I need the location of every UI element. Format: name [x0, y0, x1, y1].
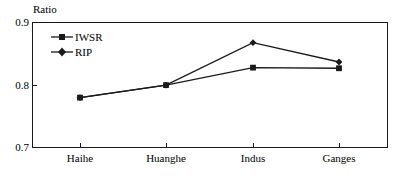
y-tick-mark-0.7 — [32, 147, 37, 148]
legend-label-rip: RIP — [75, 46, 92, 58]
x-tick-label-ganges: Ganges — [323, 152, 356, 165]
chart-screenshot: Ratio 0.9 0.8 0.7 Haihe Huanghe Indus Ga… — [0, 0, 399, 179]
y-tick-mark-0.9 — [32, 22, 37, 23]
y-tick-label-0.8: 0.8 — [15, 80, 29, 91]
legend-square-marker-icon — [50, 31, 74, 43]
x-tick-mark-huanghe — [166, 143, 167, 148]
x-tick-label-haihe: Haihe — [67, 152, 93, 165]
legend-entry-rip: RIP — [50, 44, 134, 59]
legend-entry-iwsr: IWSR — [50, 29, 134, 44]
legend: IWSR RIP — [50, 29, 134, 59]
y-tick-label-group: 0.9 0.8 0.7 — [0, 0, 29, 179]
x-tick-mark-ganges — [339, 143, 340, 148]
y-tick-label-0.7: 0.7 — [15, 142, 29, 153]
y-axis-title: Ratio — [33, 3, 57, 16]
y-tick-label-0.9: 0.9 — [15, 17, 29, 28]
x-tick-label-indus: Indus — [241, 152, 265, 165]
x-tick-label-huanghe: Huanghe — [146, 152, 186, 165]
y-tick-mark-0.8 — [32, 85, 37, 86]
legend-label-iwsr: IWSR — [75, 31, 103, 43]
x-tick-mark-indus — [253, 143, 254, 148]
x-tick-mark-haihe — [80, 143, 81, 148]
legend-diamond-marker-icon — [50, 46, 74, 58]
